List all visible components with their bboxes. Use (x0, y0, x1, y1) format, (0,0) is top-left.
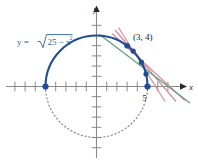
y-axis-label: y (93, 4, 98, 14)
equation-radicand-text: 25 − x (48, 37, 72, 47)
x-axis-label: x (188, 82, 193, 92)
equation-exponent-text: 2 (70, 35, 73, 41)
point-3-4 (124, 43, 130, 49)
point-3-4-label: (3, 4) (133, 32, 153, 42)
point-secant-a (131, 49, 136, 54)
equation-lhs-text: y = (17, 37, 29, 47)
x-intercept-5-label: 5 (143, 94, 147, 103)
x-axis-arrow-icon (180, 83, 187, 90)
point-x-intercept-left (42, 83, 48, 89)
point-x-intercept-right (144, 83, 150, 89)
graph-figure: y = 25 − x 2 y x (3, 4) 5 (0, 0, 198, 163)
point-secant-c (143, 72, 148, 77)
plot-svg: y = 25 − x 2 y x (3, 4) 5 (0, 0, 198, 163)
point-secant-b (139, 60, 144, 65)
equation-label: y = 25 − x 2 (17, 35, 73, 48)
